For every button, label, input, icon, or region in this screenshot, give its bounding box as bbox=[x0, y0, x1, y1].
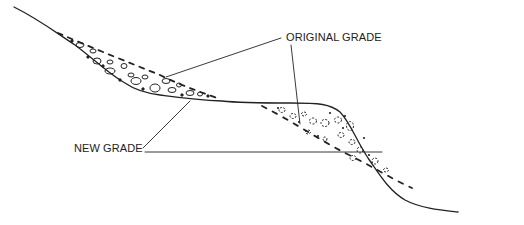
diagram-drawing bbox=[0, 0, 524, 225]
leader-original-grade-right bbox=[291, 45, 300, 124]
new-grade-line bbox=[14, 7, 458, 212]
excavated-rock-fragments bbox=[71, 40, 209, 97]
fill-material-fragments bbox=[279, 108, 389, 173]
slope-cross-section-diagram: ORIGINAL GRADE NEW GRADE bbox=[0, 0, 524, 225]
leader-original-grade-left bbox=[166, 38, 281, 77]
new-grade-label: NEW GRADE bbox=[74, 142, 143, 154]
leader-new-grade-left bbox=[143, 101, 190, 148]
original-grade-label: ORIGINAL GRADE bbox=[286, 31, 382, 43]
fill-dots bbox=[277, 107, 370, 156]
original-grade-fill-dashed bbox=[262, 106, 412, 188]
